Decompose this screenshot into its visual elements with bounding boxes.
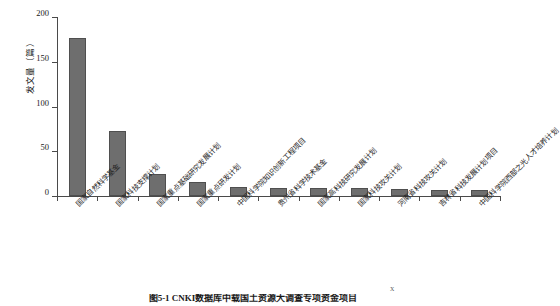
x-axis-label: 中国科学院西部之光人才培养计划 bbox=[478, 127, 560, 209]
y-axis-tick-label: 150 bbox=[15, 54, 49, 63]
y-axis-tick-mark bbox=[52, 17, 58, 18]
caption-superscript: X bbox=[390, 286, 394, 292]
y-axis-tick-label: 0 bbox=[15, 188, 49, 197]
x-axis-tick-mark bbox=[138, 196, 139, 201]
x-axis-tick-mark bbox=[460, 196, 461, 201]
x-axis-tick-mark bbox=[339, 196, 340, 201]
y-axis-tick-label: 50 bbox=[15, 143, 49, 152]
x-axis-label: 中国科学院知识创新工程项目 bbox=[236, 137, 308, 209]
x-axis-tick-mark bbox=[57, 196, 58, 201]
y-axis-tick-mark bbox=[52, 151, 58, 152]
x-axis-tick-mark bbox=[500, 196, 501, 201]
y-axis-title: 发文量（篇） bbox=[26, 0, 35, 136]
y-axis-tick-mark bbox=[52, 107, 58, 108]
y-axis-tick-label: 100 bbox=[15, 99, 49, 108]
x-axis-tick-mark bbox=[379, 196, 380, 201]
figure-caption: 图5-1 CNKI数据库中载国土资源大调查专项资金项目 bbox=[0, 294, 506, 306]
x-axis-tick-mark bbox=[258, 196, 259, 201]
x-axis-tick-mark bbox=[97, 196, 98, 201]
y-axis-tick-label: 200 bbox=[15, 9, 49, 18]
x-axis-tick-mark bbox=[218, 196, 219, 201]
y-axis-tick-mark bbox=[52, 62, 58, 63]
x-axis-tick-mark bbox=[299, 196, 300, 201]
x-axis-tick-mark bbox=[178, 196, 179, 201]
x-axis-tick-mark bbox=[419, 196, 420, 201]
bar bbox=[69, 38, 86, 196]
